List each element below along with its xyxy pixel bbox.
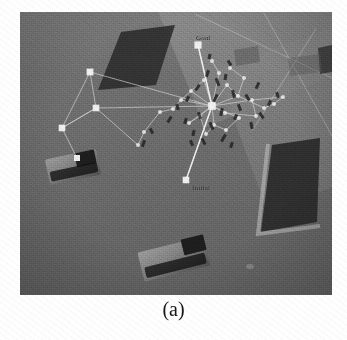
tree-node: [225, 83, 229, 87]
tree-edges: [62, 45, 283, 180]
configuration-mark: [249, 122, 253, 129]
configuration-mark: [229, 142, 234, 149]
initial-label: Initial: [192, 184, 210, 192]
configuration-mark: [149, 128, 154, 135]
tree-node: [210, 59, 214, 63]
tree-node: [254, 114, 258, 118]
tree-edge: [96, 108, 138, 145]
tree-node: [272, 102, 276, 106]
tree-node: [136, 143, 140, 147]
tree-edge: [226, 118, 239, 130]
tree-edge: [96, 106, 212, 108]
tree-edge: [62, 128, 77, 158]
tree-node: [93, 105, 100, 112]
configuration-mark: [141, 140, 146, 148]
scene-image: Goal Initial: [20, 12, 332, 295]
tree-node: [194, 41, 201, 48]
tree-node: [59, 125, 66, 132]
tree-node: [142, 130, 146, 134]
tree-edge: [230, 68, 244, 78]
tree-edge: [212, 100, 252, 106]
configuration-mark: [258, 112, 264, 119]
tree-edge: [225, 113, 256, 116]
tree-edge: [160, 109, 173, 112]
tree-node: [242, 76, 246, 80]
configuration-mark: [220, 134, 227, 142]
configuration-mark: [244, 94, 250, 102]
tree-node: [236, 94, 240, 98]
tree-node: [171, 107, 175, 111]
tree-node: [228, 66, 232, 70]
tree-node: [217, 71, 221, 75]
tree-node: [262, 106, 266, 110]
configuration-mark: [224, 74, 228, 80]
configuration-mark: [237, 104, 242, 112]
rrt-tree: [20, 12, 332, 295]
tree-node: [74, 155, 80, 161]
tree-node: [179, 98, 183, 102]
tree-node: [183, 177, 190, 184]
tree-node: [250, 98, 254, 102]
tree-node: [187, 121, 191, 125]
tree-node: [158, 110, 162, 114]
tree-edge: [238, 78, 244, 96]
tree-node: [223, 111, 227, 115]
tree-node: [281, 95, 285, 99]
tree-nodes: [59, 41, 285, 183]
figure-root: Goal Initial (a): [0, 0, 347, 340]
configuration-mark: [205, 70, 210, 78]
tree-node: [189, 89, 193, 93]
configuration-mark: [201, 138, 207, 146]
tree-node: [204, 132, 208, 136]
tree-edge: [90, 72, 96, 108]
configuration-mark: [255, 82, 261, 90]
figure-caption: (a): [0, 298, 347, 321]
tree-edge: [252, 100, 256, 116]
configuration-mark: [189, 140, 194, 147]
tree-edge: [238, 96, 264, 108]
configuration-mark: [191, 130, 195, 137]
tree-node: [224, 128, 228, 132]
configuration-mark: [231, 90, 236, 98]
tree-node: [237, 116, 241, 120]
configuration-mark: [215, 78, 221, 87]
tree-node: [208, 102, 216, 110]
goal-label: Goal: [196, 34, 210, 42]
tree-node: [87, 69, 94, 76]
configuration-mark: [227, 60, 233, 67]
configuration-mark: [208, 54, 212, 60]
configuration-mark: [166, 116, 172, 124]
tree-node: [202, 78, 206, 82]
